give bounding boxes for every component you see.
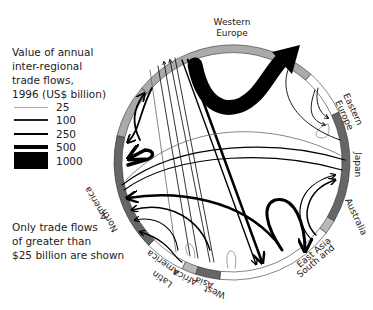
flow-we-sea-2: [182, 60, 256, 264]
flow-na-na: [128, 150, 153, 165]
chord-diagram: Western Europe Eastern Europe Japan Aust…: [0, 0, 373, 310]
label-western-europe: Western: [214, 17, 251, 27]
ring-segment-eastern-europe: [306, 74, 339, 115]
label-japan: Japan: [353, 151, 363, 177]
label-north-america: America: [83, 185, 110, 222]
label-western-europe-2: Europe: [216, 28, 248, 38]
flow-we-we: [195, 60, 282, 107]
flow-sea-sea: [267, 199, 305, 250]
label-australia: Australia: [343, 197, 369, 237]
